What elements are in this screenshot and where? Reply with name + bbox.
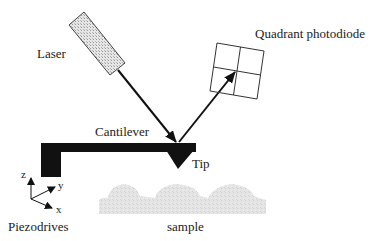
quadrant-photodiode xyxy=(210,43,264,99)
reflected-beam xyxy=(179,72,235,142)
x-axis-label: x xyxy=(56,203,62,215)
piezodrive-axes xyxy=(31,178,55,208)
z-axis-label: z xyxy=(21,168,26,180)
piezodrives-label: Piezodrives xyxy=(8,219,69,234)
tip-icon xyxy=(166,150,194,169)
sample-label: sample xyxy=(167,219,204,234)
laser-label: Laser xyxy=(37,46,67,61)
laser-body-icon xyxy=(69,12,125,75)
cantilever-label: Cantilever xyxy=(95,124,150,139)
afm-diagram: Laser Quadrant photodiode Cantilever Tip… xyxy=(0,0,379,241)
tip-label: Tip xyxy=(192,156,210,171)
sample-surface xyxy=(99,184,266,214)
laser xyxy=(69,12,125,75)
y-axis-label: y xyxy=(58,179,64,191)
y-axis-arrow xyxy=(31,187,55,199)
sample xyxy=(99,184,266,214)
photodiode-label: Quadrant photodiode xyxy=(255,26,365,41)
x-axis-arrow xyxy=(31,199,52,208)
